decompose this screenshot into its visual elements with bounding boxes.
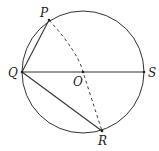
chord-qp bbox=[22, 20, 49, 72]
label-q: Q bbox=[8, 66, 18, 80]
circle-geometry-diagram: P Q O S R bbox=[0, 0, 159, 151]
chord-qr bbox=[22, 72, 102, 131]
label-p: P bbox=[39, 6, 49, 20]
point-p bbox=[48, 19, 51, 22]
label-r: R bbox=[97, 134, 107, 148]
label-o: O bbox=[73, 75, 83, 89]
point-q bbox=[21, 71, 24, 74]
label-s: S bbox=[148, 66, 156, 80]
point-s bbox=[143, 71, 146, 74]
point-o bbox=[82, 71, 85, 74]
point-r bbox=[101, 130, 104, 133]
